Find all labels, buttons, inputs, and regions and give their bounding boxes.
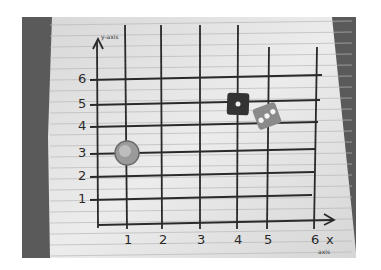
y-tick-label: 4 [78,118,86,133]
x-tick-label: 4 [234,232,242,247]
y-tick-label: 5 [78,96,86,111]
x-tick-label: 2 [159,232,167,247]
die-pip [236,102,241,107]
y-tick-label: 3 [78,145,86,160]
coin-highlight [119,145,131,157]
y-tick-label: 2 [78,168,86,183]
x-tick-label: 3 [197,232,205,247]
y-axis-title: y-axis [101,33,119,40]
x-axis-title: x [326,232,334,247]
lined-paper [22,17,356,258]
y-tick-label: 1 [78,191,86,206]
paper-sheet [48,17,356,258]
x-tick-label: 6 [311,232,319,247]
x-axis-subtitle: axis [318,248,330,255]
photo: 123456123456y-axisxaxis [22,17,356,258]
y-tick-label: 6 [78,71,86,86]
x-tick-label: 1 [124,232,132,247]
x-tick-label: 5 [264,232,272,247]
vertical-grid-line [237,25,238,229]
